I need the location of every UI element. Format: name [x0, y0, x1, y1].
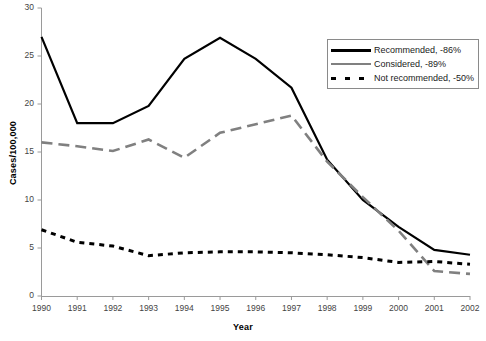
x-axis-tick-label: 1995 — [200, 303, 240, 313]
y-axis-title: Cases/100,000 — [8, 93, 18, 213]
legend-swatch-icon — [331, 45, 371, 55]
series-line-considered — [42, 116, 471, 274]
x-axis-tick-label: 1997 — [271, 303, 311, 313]
chart-legend: Recommended, -86%Considered, -89%Not rec… — [327, 39, 479, 89]
x-axis-tick-label: 2002 — [450, 303, 486, 313]
y-axis-tick-label: 0 — [8, 290, 34, 300]
line-chart: 051015202530 199019911992199319941995199… — [0, 0, 486, 341]
x-axis-tick-label: 1992 — [93, 303, 133, 313]
x-axis-tick-label: 1996 — [236, 303, 276, 313]
legend-item-label: Recommended, -86% — [374, 45, 461, 55]
legend-item-not-recommended[interactable]: Not recommended, -50% — [331, 71, 474, 85]
x-axis-title: Year — [0, 322, 486, 332]
x-axis-tick-label: 1994 — [164, 303, 204, 313]
x-axis-tick-label: 1990 — [22, 303, 62, 313]
y-axis-tick-label: 30 — [8, 2, 34, 12]
y-axis-ticks — [38, 8, 42, 296]
legend-swatch-icon — [331, 73, 371, 83]
y-axis-tick-label: 5 — [8, 242, 34, 252]
legend-item-label: Considered, -89% — [374, 59, 446, 69]
x-axis-tick-label: 1998 — [307, 303, 347, 313]
x-axis-tick-label: 1999 — [343, 303, 383, 313]
legend-item-recommended[interactable]: Recommended, -86% — [331, 43, 474, 57]
series-line-not-recommended — [42, 230, 471, 265]
x-axis-tick-label: 2001 — [414, 303, 454, 313]
legend-item-label: Not recommended, -50% — [374, 73, 474, 83]
x-axis-tick-label: 1991 — [57, 303, 97, 313]
legend-item-considered[interactable]: Considered, -89% — [331, 57, 474, 71]
x-axis-tick-label: 2000 — [379, 303, 419, 313]
legend-swatch-icon — [331, 59, 371, 69]
x-axis-tick-label: 1993 — [129, 303, 169, 313]
y-axis-tick-label: 25 — [8, 50, 34, 60]
